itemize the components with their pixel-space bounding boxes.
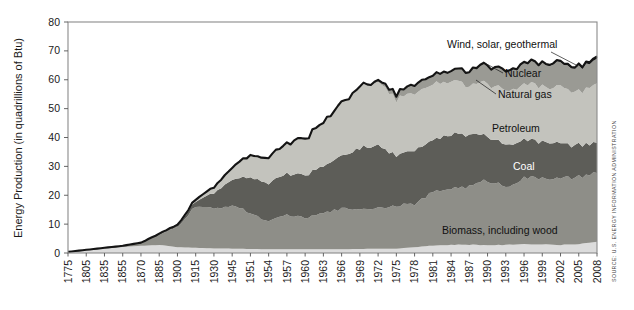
y-tick-label: 50	[48, 102, 60, 114]
y-tick-label: 80	[48, 16, 60, 28]
x-tick-label: 1996	[518, 260, 530, 284]
x-axis: 1775180518351855187018851900191519301945…	[62, 253, 603, 283]
x-tick-label: 1969	[354, 260, 366, 284]
x-tick-label: 2002	[554, 260, 566, 284]
x-tick-label: 1978	[408, 260, 420, 284]
x-tick-label: 1835	[98, 260, 110, 284]
x-tick-label: 1951	[244, 260, 256, 284]
chart-canvas: 01020304050607080 1775180518351855187018…	[0, 0, 634, 310]
series-label-biomass: Biomass, including wood	[442, 224, 558, 236]
x-tick-label: 1855	[116, 260, 128, 284]
x-tick-label: 2005	[572, 260, 584, 284]
y-tick-label: 40	[48, 131, 60, 143]
y-tick-label: 30	[48, 160, 60, 172]
x-tick-label: 1915	[189, 260, 201, 284]
y-tick-label: 60	[48, 73, 60, 85]
x-tick-label: 1999	[536, 260, 548, 284]
y-tick-label: 70	[48, 44, 60, 56]
x-tick-label: 1963	[317, 260, 329, 284]
energy-production-area-chart: 01020304050607080 1775180518351855187018…	[0, 0, 634, 310]
y-tick-label: 20	[48, 189, 60, 201]
x-tick-label: 1885	[153, 260, 165, 284]
y-tick-label: 10	[48, 218, 60, 230]
x-tick-label: 1975	[390, 260, 402, 284]
series-label-wind-solar-geothermal: Wind, solar, geothermal	[447, 38, 557, 50]
x-tick-label: 1775	[62, 260, 74, 284]
x-tick-label: 1981	[427, 260, 439, 284]
series-label-petroleum: Petroleum	[492, 122, 540, 134]
x-tick-label: 1805	[80, 260, 92, 284]
x-tick-label: 1990	[481, 260, 493, 284]
series-label-nuclear: Nuclear	[505, 67, 542, 79]
x-tick-label: 1966	[335, 260, 347, 284]
x-tick-label: 1930	[208, 260, 220, 284]
y-tick-label: 0	[54, 247, 60, 259]
series-label-natural-gas: Natural gas	[498, 88, 552, 100]
x-tick-label: 1954	[262, 260, 274, 284]
y-axis: 01020304050607080	[48, 16, 68, 259]
x-tick-label: 1900	[171, 260, 183, 284]
y-axis-title: Energy Production (in quadrillions of Bt…	[12, 38, 24, 238]
x-tick-label: 1870	[135, 260, 147, 284]
source-credit: SOURCE: U.S. ENERGY INFORMATION ADMINIST…	[611, 120, 617, 282]
x-tick-label: 1987	[463, 260, 475, 284]
x-tick-label: 1972	[372, 260, 384, 284]
x-tick-label: 1993	[499, 260, 511, 284]
x-tick-label: 1960	[299, 260, 311, 284]
x-tick-label: 1957	[281, 260, 293, 284]
series-label-coal: Coal	[513, 160, 535, 172]
x-tick-label: 1984	[445, 260, 457, 284]
x-tick-label: 1945	[226, 260, 238, 284]
x-tick-label: 2008	[591, 260, 603, 284]
